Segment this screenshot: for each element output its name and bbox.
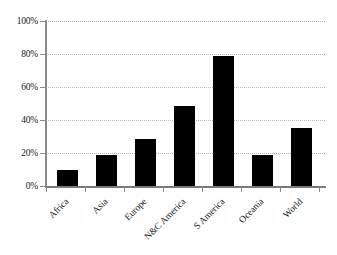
- y-axis-label-20: 20%: [4, 148, 38, 158]
- bar-nc-america: [174, 106, 195, 186]
- bar-s-america: [213, 56, 234, 186]
- x-tick-mark-3: [163, 187, 164, 192]
- y-axis-label-40: 40%: [4, 115, 38, 125]
- y-axis-label-100: 100%: [4, 16, 38, 26]
- y-axis-label-60: 60%: [4, 82, 38, 92]
- gridline-100: [46, 21, 325, 22]
- plot-area: [46, 21, 325, 186]
- bar-africa: [57, 170, 78, 187]
- bar-world: [291, 128, 312, 186]
- x-tick-mark-0: [46, 187, 47, 192]
- x-tick-mark-1: [85, 187, 86, 192]
- x-tick-mark-7: [319, 187, 320, 192]
- x-tick-mark-6: [280, 187, 281, 192]
- y-tick-mark-100: [40, 21, 46, 22]
- y-tick-mark-80: [40, 54, 46, 55]
- gridline-80: [46, 54, 325, 55]
- y-axis-label-0: 0%: [4, 181, 38, 191]
- x-tick-mark-5: [241, 187, 242, 192]
- bar-asia: [96, 155, 117, 186]
- bar-chart: 100% 80% 60% 40% 20% 0% Africa Asia Euro…: [0, 0, 337, 255]
- x-tick-mark-4: [202, 187, 203, 192]
- y-axis-line: [45, 20, 47, 187]
- y-tick-mark-40: [40, 120, 46, 121]
- bar-oceania: [252, 155, 273, 186]
- y-tick-mark-20: [40, 153, 46, 154]
- y-axis-label-80: 80%: [4, 49, 38, 59]
- bar-europe: [135, 139, 156, 186]
- y-tick-mark-60: [40, 87, 46, 88]
- x-axis-line: [45, 186, 326, 188]
- x-tick-mark-2: [124, 187, 125, 192]
- gridline-60: [46, 87, 325, 88]
